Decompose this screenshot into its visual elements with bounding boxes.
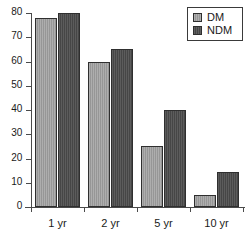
x-tick-label: 10 yr xyxy=(187,218,247,229)
x-tick-mark xyxy=(137,207,138,212)
y-tick-label: 20 xyxy=(11,153,22,163)
legend-label-ndm: NDM xyxy=(207,25,232,36)
y-tick-label: 60 xyxy=(11,56,22,66)
bar-ndm-10-yr xyxy=(217,172,239,207)
y-tick-label: 80 xyxy=(11,7,22,17)
y-tick-label: 30 xyxy=(11,128,22,138)
x-tick-label: 1 yr xyxy=(28,218,88,229)
y-tick-label: 70 xyxy=(11,31,22,41)
legend-label-dm: DM xyxy=(207,12,224,23)
legend-item-ndm: NDM xyxy=(193,24,238,37)
x-tick-mark xyxy=(190,207,191,212)
x-tick-mark xyxy=(243,207,244,212)
chart-legend: DM NDM xyxy=(187,7,243,41)
legend-swatch-dm-icon xyxy=(193,13,202,22)
bar-dm-10-yr xyxy=(194,195,216,207)
bar-group xyxy=(31,13,243,207)
legend-swatch-ndm-icon xyxy=(193,26,202,35)
bar-chart: 01020304050607080 1 yr2 yr5 yr10 yr DM N… xyxy=(0,0,249,246)
x-tick-label: 2 yr xyxy=(81,218,141,229)
x-tick-mark xyxy=(84,207,85,212)
y-tick-label: 10 xyxy=(11,177,22,187)
y-tick-label: 50 xyxy=(11,80,22,90)
legend-item-dm: DM xyxy=(193,11,238,24)
x-axis-line xyxy=(25,207,245,208)
x-tick-mark xyxy=(31,207,32,212)
y-tick-label: 0 xyxy=(17,201,22,211)
x-tick-label: 5 yr xyxy=(134,218,194,229)
y-tick-label: 40 xyxy=(11,104,22,114)
plot-area xyxy=(31,13,243,207)
